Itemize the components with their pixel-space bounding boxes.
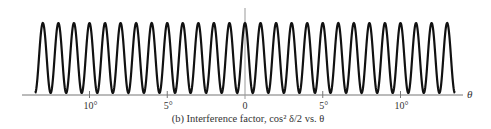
x-tick-label: 5°	[319, 100, 328, 111]
figure-caption: (b) Interference factor, cos² δ/2 vs. θ	[172, 113, 325, 125]
x-tick-label: 5°	[164, 100, 173, 111]
interference-chart: 10°5°05°10° θ (b) Interference factor, c…	[0, 0, 491, 129]
x-tick-label: 10°	[395, 100, 409, 111]
x-tick-label: 0	[243, 100, 248, 111]
x-axis-label: θ	[467, 88, 473, 100]
x-ticks: 10°5°05°10°	[84, 91, 409, 111]
x-tick-label: 10°	[84, 100, 98, 111]
